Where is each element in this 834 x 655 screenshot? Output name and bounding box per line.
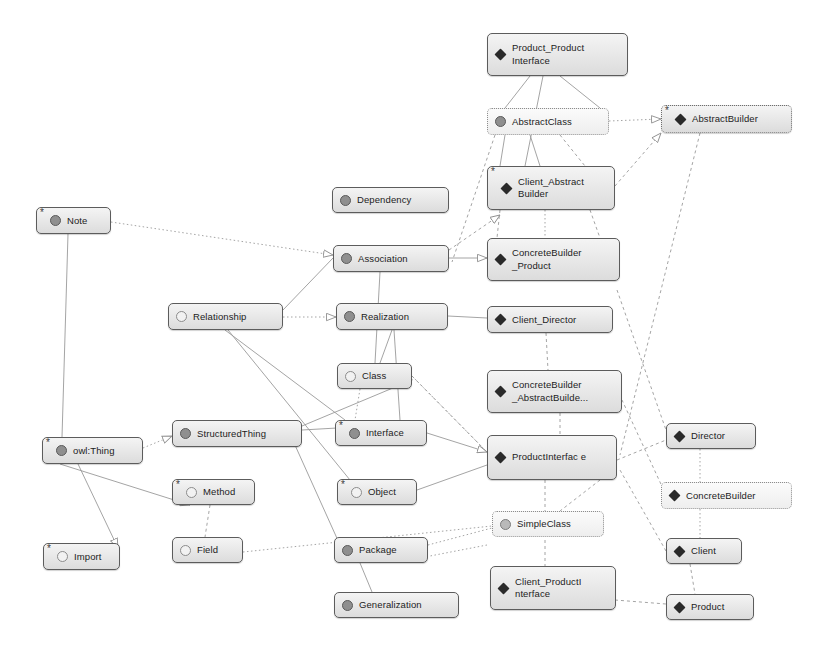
- node-client_abstract_builder[interactable]: *Client_Abstract Builder: [487, 166, 615, 210]
- circle-dark-icon: [341, 253, 352, 264]
- node-label: Generalization: [359, 599, 422, 611]
- node-star-marker: *: [491, 167, 495, 177]
- node-label: Realization: [361, 311, 409, 323]
- diamond-icon: [673, 430, 685, 442]
- node-star-marker: *: [339, 421, 343, 431]
- node-simple_class[interactable]: SimpleClass: [492, 511, 604, 537]
- node-label: AbstractClass: [512, 116, 572, 128]
- diamond-icon: [494, 451, 506, 463]
- node-note[interactable]: *Note: [36, 207, 111, 234]
- diamond-icon: [494, 253, 506, 265]
- node-label: Client_ProductI nterface: [515, 576, 609, 601]
- diamond-icon: [673, 601, 685, 613]
- node-label: Import: [74, 551, 102, 563]
- node-label: owl:Thing: [73, 445, 115, 457]
- node-star-marker: *: [176, 480, 180, 490]
- node-label: Dependency: [357, 194, 411, 206]
- node-label: Relationship: [193, 311, 246, 323]
- node-abstract_class[interactable]: AbstractClass: [487, 108, 609, 135]
- circle-dark-icon: [349, 428, 360, 439]
- circle-light-icon: [57, 551, 68, 562]
- node-label: Class: [362, 370, 386, 382]
- node-label: AbstractBuilder: [692, 113, 758, 125]
- node-association[interactable]: Association: [333, 245, 449, 272]
- node-client[interactable]: Client: [666, 538, 742, 564]
- node-method[interactable]: *Method: [172, 479, 255, 505]
- diamond-icon: [673, 545, 685, 557]
- diamond-icon: [494, 313, 506, 325]
- circle-light-icon: [345, 371, 356, 382]
- node-label: Product_Product Interface: [512, 42, 621, 67]
- node-concrete_builder_abstract_builder[interactable]: ConcreteBuilder _AbstractBuilde...: [487, 370, 622, 413]
- node-label: ProductInterfac e: [512, 451, 586, 464]
- diamond-icon: [494, 385, 506, 397]
- diamond-icon: [494, 48, 506, 60]
- node-concrete_builder[interactable]: ConcreteBuilder: [661, 482, 792, 509]
- node-interface[interactable]: *Interface: [335, 420, 427, 446]
- node-star-marker: *: [665, 106, 669, 116]
- node-star-marker: *: [341, 480, 345, 490]
- circle-dark-icon: [340, 195, 351, 206]
- node-label: Client_Abstract Builder: [518, 176, 608, 201]
- node-label: ConcreteBuilder: [686, 490, 756, 502]
- node-concrete_builder_product[interactable]: ConcreteBuilder _Product: [487, 238, 620, 281]
- node-label: Interface: [366, 427, 404, 439]
- node-star-marker: *: [46, 438, 50, 448]
- node-product[interactable]: Product: [666, 594, 754, 620]
- node-field[interactable]: Field: [172, 537, 243, 563]
- node-owl_thing[interactable]: *owl:Thing: [42, 437, 143, 464]
- node-import[interactable]: *Import: [43, 543, 120, 570]
- circle-dark-icon: [342, 545, 353, 556]
- circle-mid-icon: [500, 519, 511, 530]
- node-label: ConcreteBuilder _Product: [512, 247, 613, 272]
- node-label: StructuredThing: [197, 428, 266, 440]
- circle-dark-icon: [56, 445, 67, 456]
- circle-dark-icon: [50, 215, 61, 226]
- node-label: Association: [358, 253, 408, 265]
- node-class[interactable]: Class: [337, 363, 412, 389]
- node-package[interactable]: Package: [334, 537, 428, 563]
- node-dependency[interactable]: Dependency: [332, 187, 449, 213]
- circle-light-icon: [351, 487, 362, 498]
- diamond-icon: [497, 582, 509, 594]
- node-relationship[interactable]: Relationship: [168, 303, 283, 330]
- node-label: Note: [67, 215, 87, 227]
- circle-dark-icon: [344, 311, 355, 322]
- circle-light-icon: [180, 545, 191, 556]
- node-realization[interactable]: Realization: [336, 303, 448, 330]
- node-director[interactable]: Director: [666, 423, 756, 449]
- diamond-icon: [500, 182, 512, 194]
- node-label: ConcreteBuilder _AbstractBuilde...: [512, 379, 615, 404]
- node-object[interactable]: *Object: [337, 479, 417, 505]
- circle-dark-icon: [180, 428, 191, 439]
- node-label: SimpleClass: [517, 518, 571, 530]
- node-label: Object: [368, 486, 396, 498]
- node-generalization[interactable]: Generalization: [334, 592, 459, 618]
- node-label: Client_Director: [512, 314, 576, 326]
- diamond-icon: [674, 113, 686, 125]
- node-client_director[interactable]: Client_Director: [487, 306, 613, 333]
- node-label: Client: [691, 545, 716, 557]
- node-label: Package: [359, 544, 397, 556]
- node-label: Product: [691, 601, 724, 613]
- node-label: Method: [203, 486, 235, 498]
- node-client_product_interface[interactable]: Client_ProductI nterface: [490, 566, 616, 610]
- circle-light-icon: [176, 311, 187, 322]
- node-product_interface[interactable]: ProductInterfac e: [487, 435, 617, 480]
- node-star-marker: *: [40, 208, 44, 218]
- node-structured_thing[interactable]: StructuredThing: [172, 420, 302, 447]
- node-star-marker: *: [47, 544, 51, 554]
- node-abstract_builder[interactable]: *AbstractBuilder: [661, 105, 792, 133]
- node-label: Field: [197, 544, 218, 556]
- node-label: Director: [691, 430, 725, 442]
- circle-dark-icon: [495, 116, 506, 127]
- circle-dark-icon: [342, 600, 353, 611]
- circle-light-icon: [186, 487, 197, 498]
- diamond-icon: [668, 489, 680, 501]
- diagram-canvas[interactable]: Product_Product InterfaceAbstractClass*A…: [0, 0, 834, 655]
- node-product_product_interface[interactable]: Product_Product Interface: [487, 33, 628, 76]
